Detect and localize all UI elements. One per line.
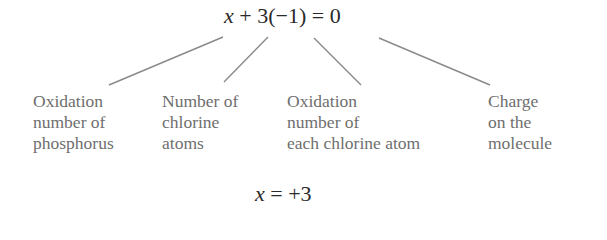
result-rest: = +3	[265, 181, 312, 206]
label-oxidation-number-chlorine: Oxidation number of each chlorine atom	[287, 91, 420, 154]
label-line: Oxidation	[287, 91, 420, 112]
label-line: molecule	[488, 133, 552, 154]
label-number-of-chlorine-atoms: Number of chlorine atoms	[162, 91, 238, 154]
label-line: chlorine	[162, 112, 238, 133]
label-line: number of	[33, 112, 114, 133]
connector-oxidation-chlorine	[314, 38, 361, 85]
label-line: Oxidation	[33, 91, 114, 112]
label-line: Charge	[488, 91, 552, 112]
label-line: number of	[287, 112, 420, 133]
result-equation: x = +3	[255, 181, 312, 207]
connector-charge	[379, 38, 490, 85]
connector-oxidation-phosphorus	[109, 37, 223, 85]
label-line: atoms	[162, 133, 238, 154]
label-line: on the	[488, 112, 552, 133]
label-line: Number of	[162, 91, 238, 112]
label-oxidation-number-phosphorus: Oxidation number of phosphorus	[33, 91, 114, 154]
label-line: phosphorus	[33, 133, 114, 154]
label-charge-on-molecule: Charge on the molecule	[488, 91, 552, 154]
result-variable: x	[255, 181, 265, 206]
connector-number-chlorine	[224, 37, 268, 82]
label-line: each chlorine atom	[287, 133, 420, 154]
